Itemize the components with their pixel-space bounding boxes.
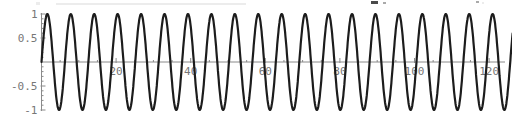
y-tick-label: -1 <box>24 104 37 117</box>
plot-window: 2040608010012010.5-0.5-1 <box>0 0 512 122</box>
sine-plot-canvas: 2040608010012010.5-0.5-1 <box>0 0 512 122</box>
y-tick-label: 1 <box>31 8 38 21</box>
x-tick-label: 120 <box>479 65 499 78</box>
y-tick-label: -0.5 <box>11 80 38 93</box>
y-tick-label: 0.5 <box>18 32 38 45</box>
